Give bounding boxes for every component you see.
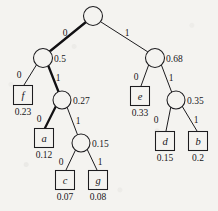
bit-label-n05-left: 0 [17,70,22,80]
leaf-g[interactable]: g 0.08 [89,171,108,203]
leaf-symbol-g: g [95,175,100,186]
edge-n035-to-leaf-d [166,106,171,131]
leaf-symbol-d: d [162,136,168,147]
bit-label-n015-right: 1 [98,157,103,167]
leaf-symbol-e: e [138,91,143,102]
node-root[interactable] [84,7,103,26]
leaf-symbol-a: a [41,133,46,144]
leaf-symbol-b: b [195,136,200,147]
bit-label-root-left: 0 [63,28,68,38]
bit-label-n027-left: 0 [37,114,42,124]
weight-label-0-15: 0.15 [92,139,109,149]
bit-label-n068-right: 1 [169,73,174,83]
edge-n05-to-leaf-f [24,64,37,85]
leaf-a[interactable]: a 0.12 [35,129,54,161]
bit-label-n05-right: 1 [56,73,61,83]
tree-canvas: 0.5 0.68 0.27 0.35 0.15 0 1 0 1 0 1 0 1 … [0,0,218,211]
node-0-27[interactable] [53,91,71,109]
weight-label-0-27: 0.27 [73,96,90,106]
bit-label-n015-left: 0 [59,157,64,167]
leaf-weight-b: 0.2 [192,153,204,163]
edge-root-to-n05 [49,22,86,52]
node-0-15[interactable] [72,134,90,152]
leaf-d[interactable]: d 0.15 [156,132,175,164]
leaf-symbol-c: c [63,175,68,186]
bit-label-n068-left: 0 [134,72,139,82]
leaf-weight-f: 0.23 [15,107,32,117]
node-0-68[interactable] [146,49,165,68]
weight-label-0-5: 0.5 [54,54,66,64]
bit-label-n035-right: 1 [194,115,199,125]
bit-label-n035-left: 0 [154,115,159,125]
bit-label-root-right: 1 [125,28,130,38]
node-0-5[interactable] [34,49,53,68]
leaf-weight-a: 0.12 [36,150,53,160]
leaf-c[interactable]: c 0.07 [56,171,75,203]
huffman-tree-figure: 0.5 0.68 0.27 0.35 0.15 0 1 0 1 0 1 0 1 … [0,0,218,211]
leaf-e[interactable]: e 0.33 [131,87,150,119]
leaf-weight-c: 0.07 [57,192,74,202]
leaf-weight-g: 0.08 [90,192,107,202]
edge-n068-to-leaf-e [141,64,149,86]
edge-n015-to-leaf-c [66,149,76,170]
leaf-b[interactable]: b 0.2 [189,132,208,164]
weight-label-0-35: 0.35 [187,96,204,106]
bit-label-n027-right: 1 [76,116,81,126]
weight-label-0-68: 0.68 [166,54,183,64]
leaf-weight-d: 0.15 [157,153,174,163]
leaf-weight-e: 0.33 [132,108,149,118]
edge-n015-to-leaf-g [87,149,97,170]
leaf-f[interactable]: f 0.23 [14,86,33,118]
node-0-35[interactable] [167,91,185,109]
edge-n027-to-leaf-a [45,106,56,128]
